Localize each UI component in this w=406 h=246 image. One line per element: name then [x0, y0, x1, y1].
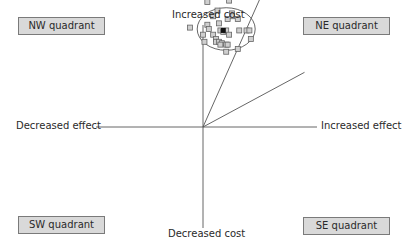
- scatter-point: [237, 28, 242, 33]
- se-quadrant-label: SE quadrant: [303, 217, 390, 235]
- decreased-cost-label: Decreased cost: [168, 228, 245, 239]
- scatter-point: [216, 21, 221, 26]
- scatter-point: [206, 27, 211, 32]
- scatter-point: [247, 28, 252, 33]
- scatter-point: [202, 39, 207, 44]
- scatter-point: [227, 32, 232, 37]
- scatter-point: [201, 32, 206, 37]
- increased-effect-label: Increased effect: [321, 120, 401, 131]
- scatter-point: [235, 46, 240, 51]
- scatter-point: [227, 0, 232, 3]
- scatter-point: [205, 0, 210, 5]
- scatter-point: [248, 36, 253, 41]
- ne-quadrant-label: NE quadrant: [303, 17, 390, 35]
- nw-quadrant-label: NW quadrant: [18, 17, 105, 35]
- scatter-point: [224, 49, 229, 54]
- scatter-point: [218, 42, 223, 47]
- scatter-point: [187, 25, 192, 30]
- increased-cost-label: Increased cost: [172, 9, 245, 20]
- sw-quadrant-label: SW quadrant: [18, 216, 105, 234]
- decreased-effect-label: Decreased effect: [16, 120, 101, 131]
- point-estimate-marker: [221, 28, 226, 33]
- scatter-point: [225, 42, 230, 47]
- ci-ray-lower: [203, 72, 305, 127]
